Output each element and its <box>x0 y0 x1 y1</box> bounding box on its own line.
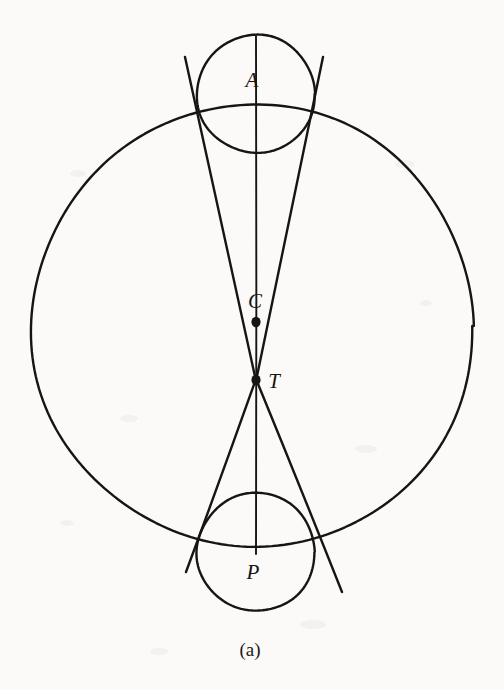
large-circle <box>31 105 474 547</box>
geometry-drawing <box>0 0 504 690</box>
figure-panel: A C T P (a) <box>0 0 504 690</box>
point-label-P: P <box>247 562 260 583</box>
point-T <box>251 375 260 386</box>
point-label-T: T <box>268 371 280 392</box>
point-label-C: C <box>248 291 262 312</box>
point-label-A: A <box>246 70 259 91</box>
point-C <box>251 317 260 328</box>
figure-caption: (a) <box>239 640 260 659</box>
tangent-right-lower <box>256 379 342 592</box>
